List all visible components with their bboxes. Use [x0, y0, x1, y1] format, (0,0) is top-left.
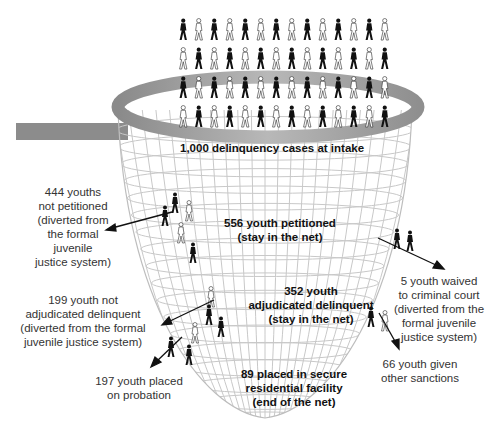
net-rim-back: [118, 77, 418, 137]
waived-label: 5 youth waived to criminal court (divert…: [386, 274, 492, 344]
funnel-diagram: 1,000 delinquency cases at intake 556 yo…: [0, 0, 492, 448]
intake-label: 1,000 delinquency cases at intake: [180, 141, 364, 155]
arrow-waived: [378, 238, 438, 266]
not-petitioned-label: 444 youths not petitioned (diverted from…: [18, 185, 128, 269]
net-handle: [16, 123, 128, 140]
adjudicated-label: 352 youth adjudicated delinquent (stay i…: [236, 284, 386, 326]
other-sanctions-label: 66 youth given other sanctions: [370, 357, 470, 385]
secure-facility-label: 89 placed in secure residential facility…: [224, 367, 364, 409]
probation-label: 197 youth placed on probation: [84, 374, 194, 402]
petitioned-label: 556 youth petitioned (stay in the net): [210, 216, 350, 244]
not-adjudicated-label: 199 youth not adjudicated delinquent (di…: [0, 293, 166, 349]
